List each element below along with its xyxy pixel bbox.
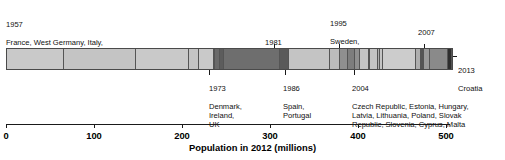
annotation-1986-members: Spain, Portugal: [283, 102, 311, 120]
bar-segment: [348, 49, 355, 69]
leader-line-1986: [285, 70, 286, 75]
bar-segment: [340, 49, 349, 69]
stacked-bar-wrapper: [6, 48, 453, 70]
population-stacked-bar: [6, 48, 453, 70]
x-axis-ticklabel: 100: [86, 130, 102, 141]
leader-line-2004: [354, 70, 355, 75]
bar-segment: [370, 49, 379, 69]
bar-segment: [136, 49, 189, 69]
annotation-1973-year: 1973: [209, 84, 242, 93]
annotation-2013-year: 2013: [458, 66, 482, 75]
x-axis-line: [6, 124, 450, 125]
bar-segment: [360, 49, 369, 69]
bar-segment: [289, 49, 329, 69]
x-axis-label: Population in 2012 (millions): [0, 142, 505, 153]
annotation-1973: 1973 Denmark, Ireland, UK: [209, 75, 242, 139]
annotation-1986-year: 1986: [283, 84, 311, 93]
x-axis-tick: [6, 124, 7, 128]
x-axis-tick: [446, 124, 447, 128]
annotation-1957-year: 1957: [6, 20, 124, 29]
bar-segment: [330, 49, 340, 69]
bar-segment: [64, 49, 136, 69]
bar-segment: [280, 49, 290, 69]
x-axis-tick: [358, 124, 359, 128]
bar-segment: [430, 49, 448, 69]
annotation-1986: 1986 Spain, Portugal: [283, 75, 311, 130]
x-axis-tick: [94, 124, 95, 128]
x-axis-tick: [270, 124, 271, 128]
bar-segment: [383, 49, 416, 69]
x-axis-ticklabel: 300: [262, 130, 278, 141]
bar-segment: [7, 49, 64, 69]
x-axis-ticklabel: 200: [174, 130, 190, 141]
bar-segment: [448, 49, 452, 69]
eu-population-figure: 1957 France, West Germany, Italy, Belgiu…: [0, 0, 505, 160]
bar-segment: [224, 49, 279, 69]
x-axis-tick: [182, 124, 183, 128]
x-axis-ticklabel: 400: [350, 130, 366, 141]
annotation-1995-year: 1995: [330, 19, 359, 28]
bar-segment: [199, 49, 214, 69]
annotation-2004-year: 2004: [352, 84, 469, 93]
bar-segment: [189, 49, 199, 69]
x-axis-ticklabel: 500: [438, 130, 454, 141]
annotation-2007-year: 2007: [418, 28, 448, 37]
annotation-1981-year: 1981: [265, 38, 290, 47]
annotation-2004-members: Czech Republic, Estonia, Hungary, Latvia…: [352, 102, 469, 129]
x-axis-ticklabel: 0: [3, 130, 8, 141]
leader-line-1973: [209, 70, 210, 75]
annotation-1973-members: Denmark, Ireland, UK: [209, 102, 242, 129]
